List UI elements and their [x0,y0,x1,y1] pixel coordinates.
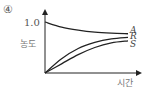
y-tick-label: 1.0 [24,17,40,28]
series-label-S: S [130,39,136,49]
series-label-layer: ARS [129,25,137,49]
y-axis-label: 농도 [20,39,36,49]
series-layer [45,22,128,73]
concentration-time-chart: ④ 1.0 농도 시간 ARS [0,0,144,88]
option-number-label: ④ [3,3,13,16]
series-line-A [45,22,128,34]
x-axis-label: 시간 [117,78,133,88]
